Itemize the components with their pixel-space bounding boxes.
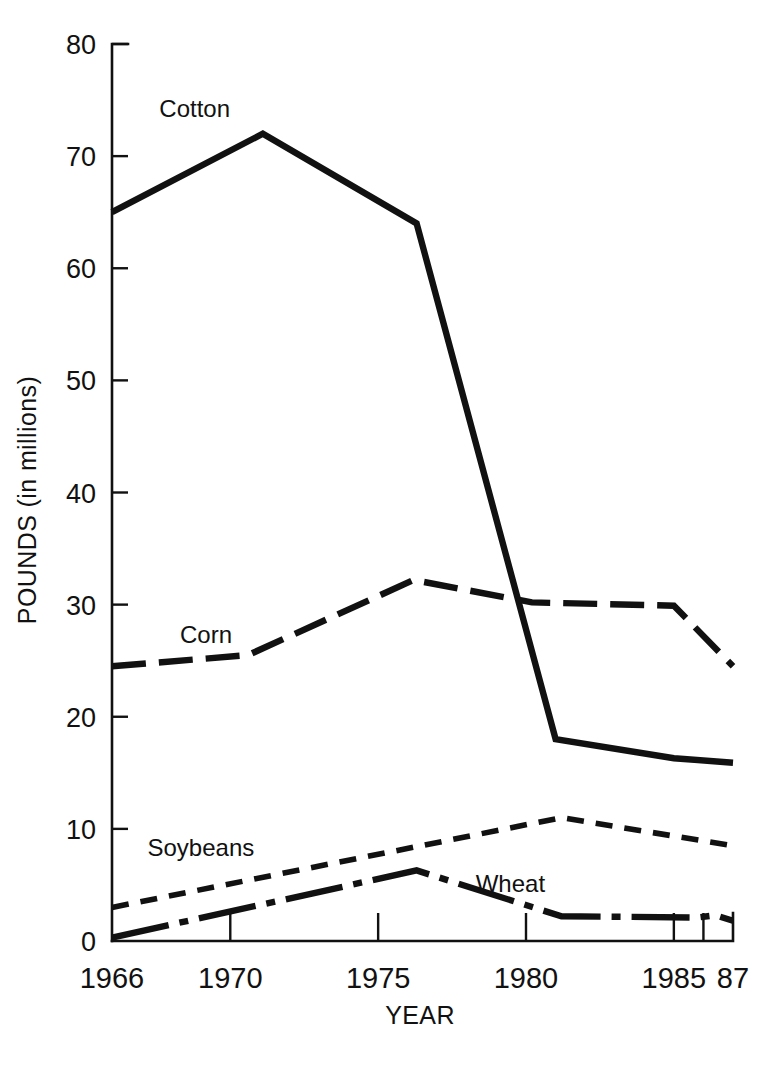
x-tick-label-1966: 1966 bbox=[80, 962, 145, 994]
series-label-wheat: Wheat bbox=[476, 870, 546, 897]
y-axis-ticks bbox=[112, 44, 128, 829]
x-axis-tick-labels: 1966197019751980198587 bbox=[80, 962, 749, 994]
page-bottom-edge bbox=[0, 1050, 784, 1068]
y-tick-label-0: 0 bbox=[81, 927, 96, 957]
series-label-cotton: Cotton bbox=[159, 95, 230, 122]
x-tick-label-1975: 1975 bbox=[346, 962, 411, 994]
series-label-soybeans: Soybeans bbox=[147, 834, 254, 861]
y-axis-tick-labels: 01020304050607080 bbox=[66, 30, 96, 957]
y-tick-label-40: 40 bbox=[66, 479, 96, 509]
series-inline-labels: CottonCornSoybeansWheat bbox=[147, 95, 545, 897]
y-tick-label-60: 60 bbox=[66, 254, 96, 284]
y-tick-label-10: 10 bbox=[66, 815, 96, 845]
series-line-wheat bbox=[112, 870, 733, 937]
x-tick-label-1970: 1970 bbox=[198, 962, 263, 994]
y-tick-label-20: 20 bbox=[66, 703, 96, 733]
series-line-cotton bbox=[112, 134, 733, 763]
series-lines bbox=[112, 134, 733, 938]
x-tick-label-1985: 1985 bbox=[642, 962, 707, 994]
y-tick-label-70: 70 bbox=[66, 142, 96, 172]
series-line-soybeans bbox=[112, 818, 733, 908]
y-tick-label-50: 50 bbox=[66, 366, 96, 396]
y-tick-label-30: 30 bbox=[66, 591, 96, 621]
x-tick-label-1987: 87 bbox=[717, 962, 749, 994]
x-axis-title: YEAR bbox=[385, 1001, 455, 1029]
y-tick-label-80: 80 bbox=[66, 30, 96, 60]
y-axis-title: POUNDS (in millions) bbox=[13, 376, 41, 624]
chart-figure: POUNDS (in millions) YEAR 01020304050607… bbox=[0, 0, 784, 1068]
x-tick-label-1980: 1980 bbox=[494, 962, 559, 994]
line-chart-canvas: POUNDS (in millions) YEAR 01020304050607… bbox=[0, 0, 784, 1068]
series-label-corn: Corn bbox=[180, 621, 232, 648]
